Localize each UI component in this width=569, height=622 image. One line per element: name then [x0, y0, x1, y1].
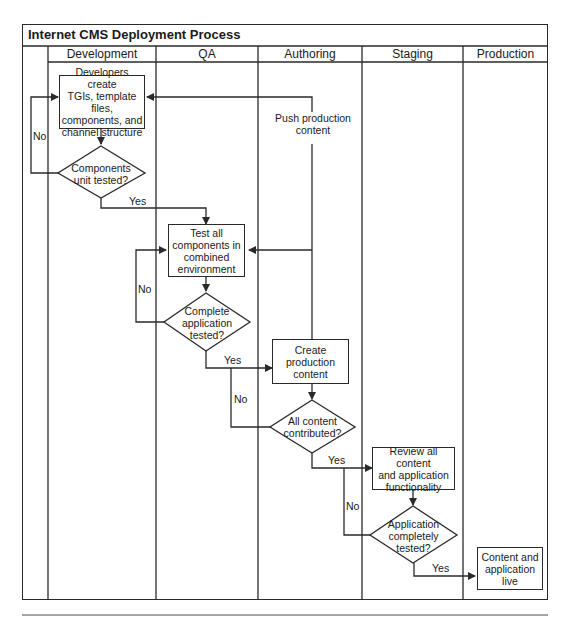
process-text: Developers create TGIs, template files, … [60, 66, 144, 138]
process-text: Content and application live [481, 551, 538, 587]
edge-label-push-production-content: Push production content [270, 112, 356, 136]
process-review-all-content: Review all content and application funct… [372, 447, 455, 490]
decision-text-staging: Application completely tested? [370, 518, 457, 554]
decision-text-qa: Complete application tested? [164, 305, 250, 341]
edge-label-no-qa: No [138, 283, 151, 295]
process-test-all-components: Test all components in combined environm… [168, 224, 245, 277]
edge-label-yes-qa: Yes [224, 354, 241, 366]
edge-label-yes-authoring: Yes [328, 454, 345, 466]
process-create-production-content: Create production content [272, 339, 349, 384]
lane-header-staging: Staging [362, 47, 463, 62]
process-developers-create: Developers create TGIs, template files, … [59, 75, 145, 129]
lane-header-development: Development [48, 47, 156, 62]
process-text: Test all components in combined environm… [172, 227, 240, 275]
process-text: Review all content and application funct… [373, 445, 454, 493]
edge-label-no-dev: No [33, 130, 46, 142]
edge-label-yes-dev: Yes [129, 195, 146, 207]
decision-text-dev: Components unit tested? [58, 162, 144, 186]
process-content-and-application-live: Content and application live [477, 547, 543, 590]
lane-header-qa: QA [156, 47, 258, 62]
decision-text-authoring: All content contributed? [270, 415, 355, 439]
process-text: Create production content [286, 344, 335, 380]
edge-label-yes-staging: Yes [432, 562, 449, 574]
diagram-title: Internet CMS Deployment Process [28, 27, 240, 42]
lane-header-production: Production [463, 47, 548, 62]
edge-label-no-staging: No [346, 500, 359, 512]
edge-label-no-authoring: No [234, 393, 247, 405]
lane-header-authoring: Authoring [258, 47, 362, 62]
